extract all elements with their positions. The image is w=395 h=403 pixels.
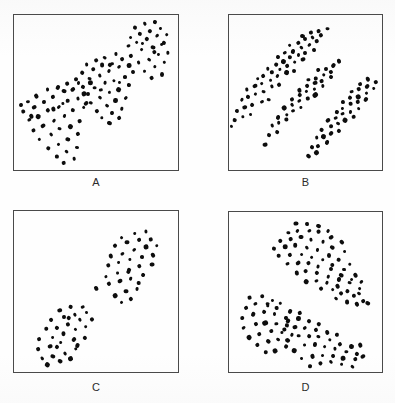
data-point: [364, 83, 371, 90]
data-point: [309, 237, 313, 241]
data-point: [317, 360, 323, 366]
data-point: [249, 102, 255, 108]
data-point: [342, 268, 346, 272]
data-point: [77, 318, 81, 323]
data-point: [105, 263, 111, 269]
data-point: [310, 35, 315, 40]
data-point: [299, 235, 304, 240]
data-point: [310, 353, 316, 359]
data-point: [330, 263, 335, 268]
data-point: [313, 87, 317, 91]
scatter-panel-d: [228, 211, 383, 373]
data-point: [109, 111, 113, 116]
data-point: [336, 122, 341, 126]
data-point: [240, 115, 244, 119]
data-point: [107, 281, 112, 287]
data-point: [246, 334, 253, 341]
data-point: [117, 261, 121, 265]
data-point: [365, 301, 371, 306]
data-point: [354, 351, 359, 356]
data-point: [341, 107, 345, 111]
data-point: [157, 53, 160, 56]
dot-layer-b: [229, 15, 382, 170]
data-point: [308, 30, 313, 35]
data-point: [316, 143, 321, 148]
data-point: [300, 57, 306, 63]
data-point: [316, 335, 320, 339]
data-point: [289, 237, 294, 242]
data-point: [293, 243, 297, 248]
data-point: [324, 66, 328, 70]
data-point: [305, 245, 309, 250]
data-point: [285, 338, 290, 343]
data-point: [333, 296, 338, 301]
data-point: [144, 36, 149, 41]
data-point: [321, 84, 325, 88]
data-point: [35, 113, 41, 119]
data-point: [311, 91, 318, 98]
data-point: [75, 342, 81, 348]
data-point: [243, 305, 249, 310]
data-point: [69, 304, 74, 309]
data-point: [335, 333, 339, 338]
data-point: [50, 107, 56, 113]
data-point: [262, 320, 269, 326]
data-point: [74, 77, 79, 81]
data-point: [292, 69, 296, 73]
data-point: [72, 156, 76, 160]
data-point: [21, 108, 26, 113]
data-point: [129, 53, 134, 58]
data-point: [276, 114, 282, 120]
data-point: [19, 103, 24, 108]
data-point: [64, 149, 69, 154]
data-point: [94, 108, 99, 113]
data-point: [328, 69, 333, 74]
data-point: [137, 281, 141, 285]
data-point: [306, 318, 312, 324]
data-point: [256, 77, 260, 80]
data-point: [111, 79, 116, 83]
data-point: [314, 75, 318, 80]
data-point: [137, 60, 141, 64]
data-point: [38, 137, 42, 141]
data-point: [303, 344, 306, 347]
panel-label-c: C: [13, 382, 179, 393]
data-point: [81, 105, 86, 110]
data-point: [48, 343, 54, 349]
data-point: [272, 246, 276, 250]
data-point: [151, 49, 157, 55]
data-point: [140, 255, 144, 259]
data-point: [44, 327, 49, 332]
data-point: [296, 40, 302, 46]
data-point: [127, 83, 131, 87]
data-point: [153, 20, 158, 25]
data-point: [350, 364, 355, 369]
data-point: [275, 305, 279, 309]
data-point: [328, 130, 335, 137]
data-point: [328, 359, 333, 364]
data-point: [112, 243, 118, 248]
data-point: [108, 254, 113, 259]
data-point: [316, 321, 321, 326]
data-point: [123, 289, 128, 293]
data-point: [316, 230, 321, 235]
data-point: [284, 63, 290, 69]
data-point: [295, 228, 300, 233]
data-point: [289, 332, 293, 337]
data-point: [286, 338, 292, 344]
data-point: [356, 291, 361, 296]
data-point: [315, 136, 319, 140]
data-point: [51, 118, 56, 123]
data-point: [313, 80, 318, 84]
data-point: [61, 331, 65, 336]
data-point: [262, 90, 267, 94]
data-point: [110, 62, 114, 65]
data-point: [40, 356, 45, 362]
data-point: [278, 67, 282, 71]
data-point: [266, 97, 271, 101]
data-point: [73, 347, 78, 352]
data-point: [303, 37, 308, 42]
data-point: [298, 310, 303, 315]
data-point: [356, 99, 361, 104]
data-point: [253, 321, 258, 326]
